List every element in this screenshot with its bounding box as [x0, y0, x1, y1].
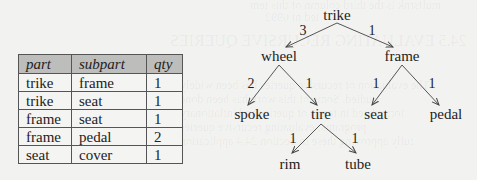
node-pedal: pedal: [430, 106, 462, 122]
edge-label-wheel-spoke: 2: [248, 76, 255, 91]
edge-label-trike-wheel: 3: [300, 23, 307, 38]
edge-trike-frame: [337, 23, 393, 47]
edge-label-trike-frame: 1: [369, 23, 376, 38]
node-spoke: spoke: [235, 106, 270, 122]
edge-label-wheel-tire: 1: [306, 76, 313, 91]
edge-label-tire-rim: 1: [290, 131, 297, 146]
node-wheel: wheel: [261, 48, 297, 64]
node-rim: rim: [280, 156, 301, 172]
node-tube: tube: [345, 156, 371, 172]
edge-label-frame-seat: 1: [373, 76, 380, 91]
edge-trike-wheel: [286, 23, 337, 47]
node-frame: frame: [385, 48, 420, 64]
edge-label-tire-tube: 1: [352, 131, 359, 146]
document-page: mulfsrnk is the third column of this tem…: [0, 0, 477, 180]
edge-label-frame-pedal: 1: [429, 76, 436, 91]
assembly-tree-diagram: trike wheel frame spoke tire seat pedal …: [0, 0, 477, 180]
node-tire: tire: [311, 106, 331, 122]
node-seat: seat: [364, 106, 388, 122]
node-trike: trike: [323, 7, 351, 23]
